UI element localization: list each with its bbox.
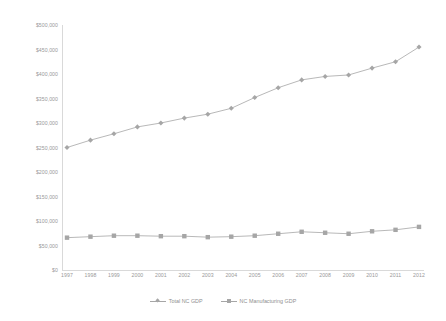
data-point-marker [111, 131, 116, 136]
y-axis-tick-label: $200,000 [36, 169, 58, 175]
x-axis-tick-label: 2007 [296, 272, 308, 278]
x-axis-tick-label: 2005 [249, 272, 261, 278]
gdp-line-chart: $0$50,000$100,000$150,000$200,000$250,00… [0, 0, 446, 321]
data-point-marker [393, 59, 398, 64]
chart-legend: Total NC GDPNC Manufacturing GDP [0, 298, 446, 304]
data-point-marker [299, 77, 304, 82]
legend-label: NC Manufacturing GDP [240, 298, 297, 304]
data-point-marker [64, 145, 69, 150]
data-point-marker [135, 234, 139, 238]
series-line [67, 227, 419, 238]
y-axis-tick-label: $0 [52, 267, 58, 273]
data-point-marker [182, 234, 186, 238]
data-point-marker [370, 66, 375, 71]
data-point-marker [65, 235, 69, 239]
legend-item-1[interactable]: Total NC GDP [150, 298, 203, 304]
data-point-marker [252, 95, 257, 100]
y-axis-tick-label: $100,000 [36, 218, 58, 224]
x-axis-tick-label: 2003 [202, 272, 214, 278]
data-point-marker [276, 85, 281, 90]
x-axis-tick-label: 1998 [85, 272, 97, 278]
y-axis-tick-label: $300,000 [36, 120, 58, 126]
data-point-marker [206, 235, 210, 239]
y-axis-tick-label: $500,000 [36, 22, 58, 28]
data-point-marker [88, 234, 92, 238]
x-axis-tick-label: 2002 [178, 272, 190, 278]
data-point-marker [346, 232, 350, 236]
data-point-marker [299, 230, 303, 234]
data-point-marker [205, 112, 210, 117]
x-axis-tick-label: 2011 [390, 272, 401, 278]
x-axis-tick-label: 2006 [272, 272, 284, 278]
legend-label: Total NC GDP [169, 298, 203, 304]
y-axis-tick-label: $250,000 [36, 145, 58, 151]
y-axis-tick-label: $150,000 [36, 194, 58, 200]
x-axis-line [62, 270, 424, 271]
data-point-marker [88, 138, 93, 143]
square-marker-icon [221, 298, 237, 304]
y-axis-tick-label: $450,000 [36, 47, 58, 53]
series-layer [62, 25, 424, 270]
x-axis: 1997199819992000200120022003200420052006… [62, 272, 424, 286]
data-point-marker [182, 116, 187, 121]
series-2 [65, 225, 421, 240]
x-axis-tick-label: 2010 [366, 272, 378, 278]
data-point-marker [229, 106, 234, 111]
data-point-marker [416, 45, 421, 50]
data-point-marker [393, 228, 397, 232]
data-point-marker [370, 229, 374, 233]
y-axis-tick-label: $350,000 [36, 96, 58, 102]
x-axis-tick-label: 2001 [155, 272, 167, 278]
x-axis-tick-label: 2009 [343, 272, 355, 278]
data-point-marker [323, 231, 327, 235]
data-point-marker [135, 124, 140, 129]
legend-item-2[interactable]: NC Manufacturing GDP [221, 298, 297, 304]
series-line [67, 47, 419, 147]
data-point-marker [159, 234, 163, 238]
data-point-marker [417, 225, 421, 229]
x-axis-tick-label: 2000 [132, 272, 144, 278]
y-axis-tick-label: $400,000 [36, 71, 58, 77]
data-point-marker [323, 74, 328, 79]
diamond-marker-icon [150, 298, 166, 304]
data-point-marker [253, 234, 257, 238]
data-point-marker [229, 234, 233, 238]
x-axis-tick-label: 2004 [225, 272, 237, 278]
y-axis: $0$50,000$100,000$150,000$200,000$250,00… [0, 25, 58, 270]
data-point-marker [346, 72, 351, 77]
series-1 [64, 45, 421, 151]
data-point-marker [158, 120, 163, 125]
y-axis-tick-label: $50,000 [39, 243, 58, 249]
x-axis-tick-label: 2012 [413, 272, 425, 278]
data-point-marker [276, 232, 280, 236]
x-axis-tick-label: 1997 [61, 272, 73, 278]
data-point-marker [112, 234, 116, 238]
x-axis-tick-label: 1999 [108, 272, 120, 278]
x-axis-tick-label: 2008 [319, 272, 331, 278]
plot-area [62, 25, 424, 270]
